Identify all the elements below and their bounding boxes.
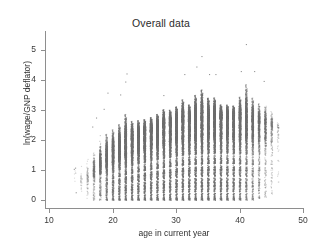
x-tick-mark (240, 209, 241, 213)
x-tick-mark (176, 209, 177, 213)
y-tick-mark (41, 50, 45, 51)
y-tick-mark (41, 140, 45, 141)
x-tick-mark (49, 209, 50, 213)
x-axis-spine (45, 208, 304, 209)
y-tick-mark (41, 200, 45, 201)
x-tick-label: 40 (229, 215, 251, 225)
y-axis-label: ln(wage/GNP deflator) (22, 33, 32, 173)
page-title: Overall data (0, 17, 322, 29)
x-axis-label: age in current year (46, 228, 302, 238)
y-tick-mark (41, 110, 45, 111)
plot-area (46, 31, 302, 208)
y-tick-label: 0 (28, 195, 39, 204)
scatter-plot-figure: Overall data 012345 1020304050 ln(wage/G… (0, 0, 322, 251)
x-tick-label: 10 (38, 215, 60, 225)
x-tick-mark (303, 209, 304, 213)
x-tick-mark (113, 209, 114, 213)
x-tick-label: 30 (165, 215, 187, 225)
x-tick-label: 50 (292, 215, 314, 225)
y-tick-mark (41, 170, 45, 171)
y-axis-spine (45, 31, 46, 209)
y-tick-mark (41, 80, 45, 81)
x-tick-label: 20 (102, 215, 124, 225)
scatter-points-canvas (46, 31, 302, 208)
